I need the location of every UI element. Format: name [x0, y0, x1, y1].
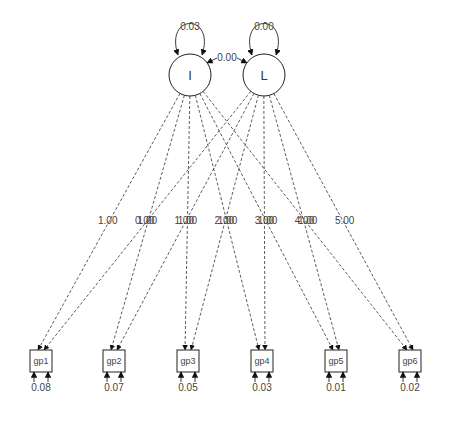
residual-label: 0.02 — [400, 382, 420, 393]
loading-label: 0.00 — [135, 215, 155, 226]
observed-label: gp1 — [33, 356, 48, 366]
observed-label: gp4 — [254, 356, 269, 366]
loading-label: 1.00 — [175, 215, 195, 226]
latent-label: I — [188, 68, 192, 83]
loading-label: 3.00 — [255, 215, 275, 226]
nodes: 0.03I0.00L0.00gp10.08gp20.07gp30.05gp40.… — [30, 21, 421, 393]
residual-label: 0.05 — [178, 382, 198, 393]
loading-label: 5.00 — [335, 215, 355, 226]
covariance-label: 0.00 — [217, 52, 237, 63]
variance-label: 0.03 — [180, 21, 200, 32]
variance-label: 0.00 — [254, 21, 274, 32]
observed-label: gp2 — [106, 356, 121, 366]
sem-path-diagram: 1.001.001.001.001.001.000.001.002.003.00… — [0, 0, 452, 422]
latent-label: L — [260, 68, 267, 83]
covariance-arrow — [207, 58, 217, 63]
loading-label: 4.00 — [295, 215, 315, 226]
observed-label: gp3 — [180, 356, 195, 366]
covariance-arrow — [237, 58, 247, 63]
loading-label: 2.00 — [215, 215, 235, 226]
residual-label: 0.03 — [252, 382, 272, 393]
residual-label: 0.01 — [326, 382, 346, 393]
observed-label: gp6 — [402, 356, 417, 366]
loading-paths: 1.001.001.001.001.001.000.001.002.003.00… — [38, 91, 413, 350]
loading-label: 1.00 — [98, 215, 118, 226]
residual-label: 0.08 — [31, 382, 51, 393]
observed-label: gp5 — [328, 356, 343, 366]
residual-label: 0.07 — [104, 382, 124, 393]
